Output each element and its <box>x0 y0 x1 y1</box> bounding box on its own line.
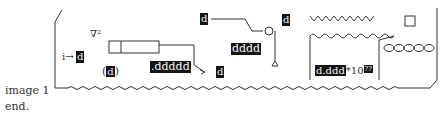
decimal-readout: .ddddd <box>150 61 191 73</box>
scientific-mantissa: d.ddd <box>315 65 346 76</box>
scientific-exponent: ?? <box>364 65 374 73</box>
scientific-readout: d.ddd*10?? <box>315 63 373 77</box>
four-digit-readout: dddd <box>231 43 261 55</box>
laplacian-label: ∇² <box>90 28 101 40</box>
node-digit: d <box>282 14 290 26</box>
paren-digit-group: (d) <box>102 66 119 78</box>
input-digit: d <box>76 51 84 63</box>
end-caption: end. <box>5 100 29 113</box>
arrow-target-digit: d <box>216 66 224 78</box>
scientific-times: *10 <box>346 65 364 76</box>
paren-digit: d <box>106 66 114 77</box>
input-arrow-label: i→ <box>62 51 74 63</box>
top-digit: d <box>200 13 208 25</box>
image-caption: image 1 <box>5 84 50 97</box>
paren-close: ) <box>115 65 119 78</box>
